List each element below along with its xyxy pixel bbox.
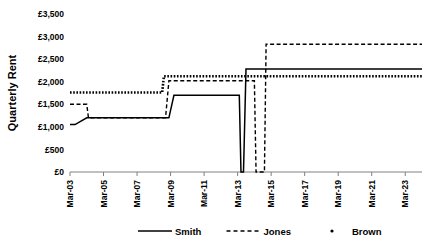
x-axis-tick-label: Mar-15 bbox=[266, 180, 276, 208]
x-axis-tick-label: Mar-17 bbox=[300, 180, 310, 208]
series-line-jones bbox=[70, 44, 422, 172]
x-axis-tick-label: Mar-21 bbox=[367, 180, 377, 208]
y-axis-tick-label: £500 bbox=[45, 145, 64, 155]
y-axis-tick-label: £3,500 bbox=[38, 9, 64, 19]
x-axis-tick-label: Mar-05 bbox=[99, 180, 109, 208]
x-axis-tick-label: Mar-11 bbox=[199, 180, 209, 207]
x-axis-tick-label: Mar-13 bbox=[233, 180, 243, 208]
x-axis-tick-label: Mar-03 bbox=[65, 180, 75, 208]
x-axis-tick-label: Mar-09 bbox=[166, 180, 176, 208]
y-axis-tick-label: £1,000 bbox=[38, 122, 64, 132]
quarterly-rent-chart: £0£500£1,000£1,500£2,000£2,500£3,000£3,5… bbox=[0, 0, 431, 249]
legend-label-smith: Smith bbox=[175, 226, 202, 237]
legend-swatch-brown bbox=[330, 229, 333, 232]
chart-canvas: £0£500£1,000£1,500£2,000£2,500£3,000£3,5… bbox=[0, 0, 431, 249]
legend-label-jones: Jones bbox=[264, 226, 291, 237]
series-line-smith bbox=[70, 69, 422, 172]
x-axis-tick-label: Mar-19 bbox=[333, 180, 343, 208]
y-axis-tick-label: £2,500 bbox=[38, 54, 64, 64]
x-axis-tick-label: Mar-07 bbox=[132, 180, 142, 208]
y-axis-tick-label: £2,000 bbox=[38, 77, 64, 87]
x-axis-tick-label: Mar-23 bbox=[400, 180, 410, 208]
y-axis-tick-label: £3,000 bbox=[38, 32, 64, 42]
y-axis-title: Quarterly Rent bbox=[6, 54, 18, 131]
legend-label-brown: Brown bbox=[352, 226, 382, 237]
y-axis-tick-label: £1,500 bbox=[38, 99, 64, 109]
y-axis-tick-label: £0 bbox=[55, 167, 65, 177]
